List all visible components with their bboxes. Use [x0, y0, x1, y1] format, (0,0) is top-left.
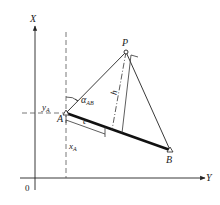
- azimuth-arc-arrow: [75, 99, 78, 101]
- e-label: e: [83, 116, 87, 126]
- x-axis-label: X: [29, 13, 37, 24]
- xa-label: xA: [68, 141, 77, 152]
- survey-diagram: X Y 0 h e αAB yA xA A B P: [0, 0, 220, 205]
- azimuth-arc: [66, 97, 78, 101]
- point-a-label: A: [56, 113, 64, 124]
- h-label: h: [109, 89, 120, 96]
- y-axis-label: Y: [206, 172, 213, 183]
- line-ab: [66, 113, 170, 150]
- ya-label: yA: [41, 102, 50, 113]
- origin-label: 0: [25, 183, 30, 193]
- alpha-label: αAB: [81, 94, 94, 106]
- point-b-label: B: [166, 154, 172, 165]
- point-p-marker: [124, 50, 128, 54]
- point-p-label: P: [121, 37, 128, 48]
- p-tick: [131, 55, 138, 57]
- line-pb: [126, 52, 170, 150]
